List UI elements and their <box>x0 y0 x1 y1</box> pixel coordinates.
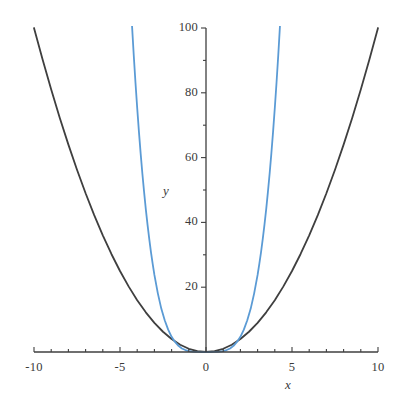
y-axis-title: y <box>163 183 169 199</box>
x-axis-title: x <box>285 377 291 393</box>
y-tick-label: 100 <box>150 20 198 35</box>
x-tick-label: -10 <box>14 360 54 375</box>
y-tick-label: 40 <box>150 214 198 229</box>
y-tick-label: 80 <box>150 85 198 100</box>
y-tick-label: 20 <box>150 279 198 294</box>
axes-layer <box>34 28 378 352</box>
y-tick-label: 60 <box>150 150 198 165</box>
plot-canvas <box>0 0 408 408</box>
x-tick-label: -5 <box>100 360 140 375</box>
x-tick-label: 10 <box>358 360 398 375</box>
x-tick-label: 0 <box>186 360 226 375</box>
x-tick-label: 5 <box>272 360 312 375</box>
chart-figure: -10-5051020406080100 y x <box>0 0 408 408</box>
